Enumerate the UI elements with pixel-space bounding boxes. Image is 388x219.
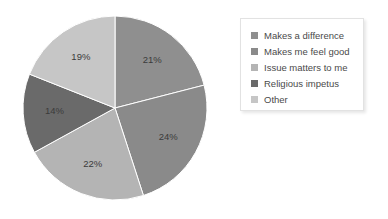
legend-swatch-icon (251, 32, 258, 39)
pie-slice-value-label: 14% (45, 105, 65, 116)
pie-slice-value-label: 19% (71, 51, 91, 62)
pie-slice-value-label: 21% (143, 54, 163, 65)
legend-item-label: Makes a difference (264, 31, 344, 41)
legend-swatch-icon (251, 96, 258, 103)
legend-item-other[interactable]: Other (251, 92, 363, 107)
legend-item-makes-me-feel-good[interactable]: Makes me feel good (251, 44, 363, 59)
chart-canvas: 21%24%22%14%19% Makes a difference Makes… (0, 0, 388, 219)
legend-swatch-icon (251, 80, 258, 87)
legend-item-religious-impetus[interactable]: Religious impetus (251, 76, 363, 91)
pie-slice-value-label: 24% (159, 131, 179, 142)
legend-item-label: Makes me feel good (264, 47, 350, 57)
legend-item-issue-matters-to-me[interactable]: Issue matters to me (251, 60, 363, 75)
chart-legend: Makes a difference Makes me feel good Is… (240, 18, 364, 111)
legend-item-makes-a-difference[interactable]: Makes a difference (251, 28, 363, 43)
legend-swatch-icon (251, 64, 258, 71)
legend-swatch-icon (251, 48, 258, 55)
legend-item-label: Other (264, 95, 288, 105)
legend-item-label: Issue matters to me (264, 63, 347, 73)
legend-item-label: Religious impetus (264, 79, 339, 89)
pie-slice-value-label: 22% (83, 158, 103, 169)
